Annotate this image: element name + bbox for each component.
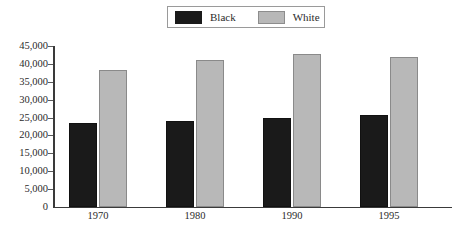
bar-black-1995 (360, 115, 388, 207)
bar-black-1990 (263, 118, 291, 207)
bar-black-1970 (69, 123, 97, 207)
x-tick-1980: 1980 (185, 211, 206, 222)
bar-chart: Black White 45,000 40,000 35,000 30,000 … (0, 0, 459, 231)
bar-white-1980 (196, 60, 224, 207)
bar-black-1980 (166, 121, 194, 207)
x-tick-1970: 1970 (88, 211, 109, 222)
x-tick-1995: 1995 (379, 211, 400, 222)
bar-white-1995 (390, 57, 418, 207)
bar-white-1990 (293, 54, 321, 207)
plot-area: 45,000 40,000 35,000 30,000 25,000 20,00… (0, 0, 459, 231)
x-tick-1990: 1990 (282, 211, 303, 222)
bar-white-1970 (99, 70, 127, 207)
bars-container (0, 0, 459, 231)
